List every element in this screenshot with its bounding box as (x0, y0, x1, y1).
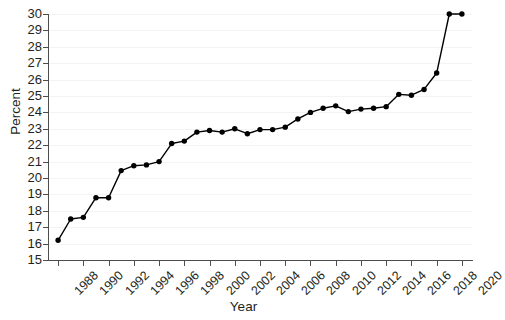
data-point (283, 124, 288, 129)
data-point (144, 162, 149, 167)
data-point (434, 70, 439, 75)
data-point (93, 195, 98, 200)
data-point (118, 168, 123, 173)
data-point (68, 216, 73, 221)
data-point (346, 109, 351, 114)
data-point (308, 110, 313, 115)
data-point (182, 138, 187, 143)
data-point (219, 129, 224, 134)
data-point (169, 141, 174, 146)
data-point (270, 127, 275, 132)
data-point (131, 163, 136, 168)
data-point (257, 127, 262, 132)
data-point (106, 195, 111, 200)
data-point (295, 116, 300, 121)
data-point (409, 92, 414, 97)
data-point (245, 131, 250, 136)
data-point (371, 106, 376, 111)
data-point (194, 129, 199, 134)
y-axis-title: Percent (8, 62, 23, 162)
data-point (207, 128, 212, 133)
data-point (55, 238, 60, 243)
data-point (459, 11, 464, 16)
data-point (156, 159, 161, 164)
series-markers (55, 11, 464, 243)
data-point (421, 87, 426, 92)
data-point (81, 215, 86, 220)
x-axis-title: Year (0, 299, 487, 314)
data-point (320, 106, 325, 111)
data-point (396, 92, 401, 97)
data-point (383, 104, 388, 109)
data-point (447, 11, 452, 16)
data-point (232, 126, 237, 131)
data-point (333, 103, 338, 108)
data-point (358, 106, 363, 111)
